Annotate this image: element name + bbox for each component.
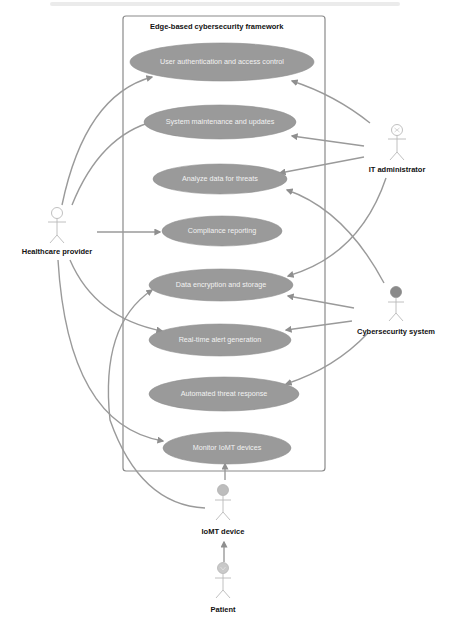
actor-cybersecurity-system[interactable]: Cybersecurity system [357, 287, 435, 337]
use-case-label: Data encryption and storage [176, 280, 266, 289]
use-case-monitor[interactable]: Monitor IoMT devices [163, 432, 291, 464]
use-case-label: Analyze data for threats [182, 174, 258, 183]
actor-label: IT administrator [369, 165, 426, 174]
use-case-auth[interactable]: User authentication and access control [130, 43, 314, 81]
stick-figure-icon [388, 287, 404, 322]
actor-iomt-device[interactable]: IoMT device [202, 485, 245, 537]
use-case-encryption[interactable]: Data encryption and storage [149, 269, 293, 301]
use-case-compliance[interactable]: Compliance reporting [162, 216, 282, 246]
actor-label: Patient [210, 605, 236, 614]
use-case-label: Automated threat response [181, 389, 268, 398]
actor-label: Healthcare provider [22, 247, 93, 256]
stick-figure-icon [215, 563, 231, 599]
use-case-maintenance[interactable]: System maintenance and updates [144, 105, 296, 139]
actor-label: Cybersecurity system [357, 327, 435, 336]
use-case-diagram: Edge-based cybersecurity framework User … [0, 0, 450, 625]
stick-figure-icon [388, 125, 406, 161]
use-case-analyze[interactable]: Analyze data for threats [153, 164, 287, 194]
use-case-response[interactable]: Automated threat response [149, 377, 299, 411]
actor-label: IoMT device [202, 527, 245, 536]
use-case-label: Compliance reporting [188, 226, 256, 235]
use-case-label: Real-time alert generation [179, 335, 262, 344]
stick-figure-icon [215, 485, 231, 521]
stick-figure-icon [48, 208, 66, 244]
use-case-label: System maintenance and updates [166, 117, 275, 126]
boundary-title: Edge-based cybersecurity framework [150, 22, 284, 31]
use-case-label: Monitor IoMT devices [193, 443, 262, 452]
use-case-alert[interactable]: Real-time alert generation [149, 324, 291, 356]
actor-healthcare-provider[interactable]: Healthcare provider [22, 208, 93, 257]
actor-patient[interactable]: Patient [210, 563, 236, 615]
actor-it-administrator[interactable]: IT administrator [369, 125, 426, 175]
use-case-label: User authentication and access control [160, 57, 284, 66]
cropped-caption-remnant [50, 2, 400, 6]
